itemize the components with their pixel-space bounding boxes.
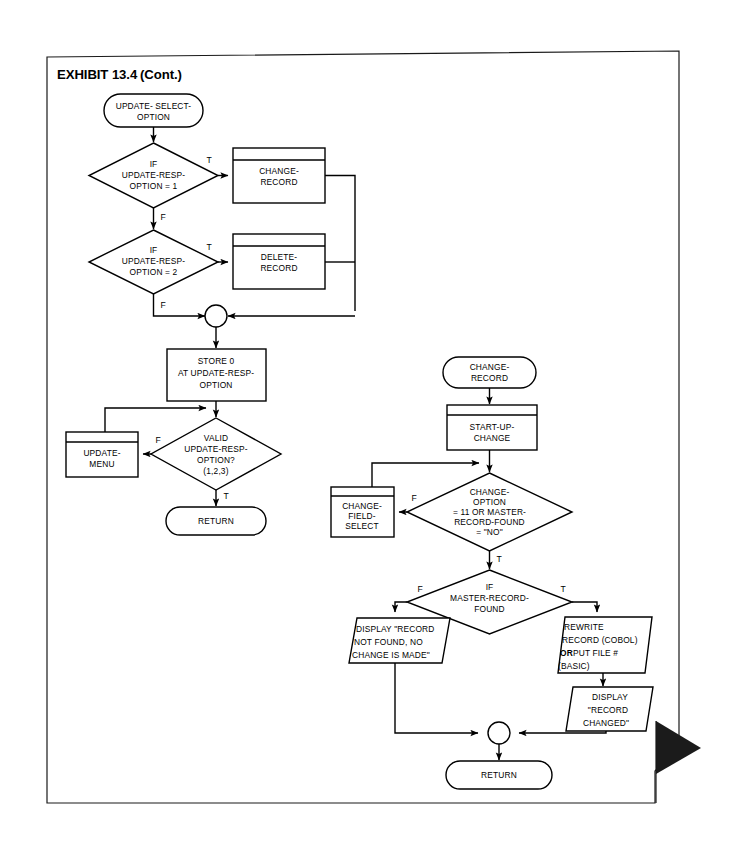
- edge-flag-false: F: [155, 435, 160, 445]
- node-label: RECORD: [260, 177, 297, 187]
- node-label: OPTION?: [197, 455, 235, 465]
- node-label: (1,2,3): [203, 466, 228, 476]
- edge-flag-true: T: [496, 554, 502, 564]
- node-label: STORE 0: [198, 356, 235, 366]
- page-title: EXHIBIT 13.4: [57, 67, 138, 82]
- node-label: PUT FILE #: [573, 648, 618, 658]
- node-label: UPDATE-RESP-: [122, 170, 186, 180]
- node-label: = 11 OR MASTER-: [453, 507, 526, 517]
- flowchart-canvas: EXHIBIT 13.4 (Cont.) UPDATE- SELECT- OPT…: [0, 0, 729, 841]
- edge-flag-false: F: [417, 584, 422, 594]
- edge-flag-false: F: [160, 300, 165, 310]
- node-start-up-change-call: START-UP- CHANGE: [447, 405, 537, 450]
- node-label: RECORD: [260, 263, 297, 273]
- node-label: RECORD: [471, 373, 508, 383]
- node-label: DISPLAY "RECORD: [356, 624, 434, 634]
- edge-n16-merge: [395, 663, 478, 733]
- node-display-record-not-found: DISPLAY "RECORD NOT FOUND, NO CHANGE IS …: [349, 618, 450, 663]
- node-change-field-select-call: CHANGE- FIELD- SELECT: [331, 487, 394, 537]
- node-label: CHANGE IS MADE": [352, 650, 430, 660]
- node-label: IF: [150, 245, 158, 255]
- edge-flag-false: F: [160, 212, 165, 222]
- node-label: CHANGE-: [342, 501, 382, 511]
- edge-flag-true: T: [206, 155, 212, 165]
- node-label: OPTION = 1: [130, 181, 178, 191]
- connector-node-lower: [488, 722, 510, 744]
- node-return-left: RETURN: [166, 507, 266, 535]
- node-label: CHANGE-: [259, 166, 299, 176]
- node-label: REWRITE: [564, 622, 604, 632]
- node-label: CHANGE-: [470, 487, 510, 497]
- node-label: MASTER-RECORD-: [450, 593, 529, 603]
- node-label: RETURN: [481, 770, 517, 780]
- node-label: VALID: [204, 433, 228, 443]
- node-label: UPDATE- SELECT-: [116, 101, 192, 111]
- node-label: UPDATE-RESP-: [122, 256, 186, 266]
- node-label: OPTION: [137, 112, 170, 122]
- node-update-select-option: UPDATE- SELECT- OPTION: [104, 94, 203, 127]
- node-label: CHANGED": [583, 718, 629, 728]
- edge-flag-true: T: [223, 491, 229, 501]
- node-label: OPTION: [473, 497, 506, 507]
- node-if-update-resp-option-2: IF UPDATE-RESP- OPTION = 2: [89, 230, 218, 294]
- node-label: CHANGE: [474, 433, 511, 443]
- node-label: UPDATE-: [83, 448, 120, 458]
- node-label: OR: [560, 648, 573, 658]
- node-label: FIELD-: [348, 511, 375, 521]
- edge-n3-merge: [325, 176, 355, 312]
- node-label: FOUND: [474, 604, 505, 614]
- connector-node-upper: [205, 305, 227, 327]
- node-label: OPTION: [199, 380, 232, 390]
- node-label: NOT FOUND, NO: [354, 637, 423, 647]
- page-title-continued: (Cont.): [140, 67, 182, 82]
- node-label: MENU: [89, 459, 114, 469]
- edge-update-menu-loopback: [105, 408, 206, 432]
- node-label: CHANGE-: [470, 362, 510, 372]
- node-label: DISPLAY: [592, 692, 628, 702]
- node-change-record-start: CHANGE- RECORD: [443, 357, 536, 388]
- node-valid-update-resp-option: VALID UPDATE-RESP- OPTION? (1,2,3): [151, 418, 281, 490]
- edge-n15-false: [395, 602, 407, 612]
- node-display-record-changed: DISPLAY "RECORD CHANGED": [566, 687, 653, 731]
- node-label: DELETE-: [261, 252, 297, 262]
- exhibit-page: EXHIBIT 13.4 (Cont.) UPDATE- SELECT- OPT…: [0, 0, 729, 841]
- edge-flag-false: F: [411, 493, 416, 503]
- node-delete-record-call: DELETE- RECORD: [233, 234, 325, 289]
- node-update-menu-call: UPDATE- MENU: [66, 432, 138, 477]
- node-change-option-check: CHANGE- OPTION = 11 OR MASTER- RECORD-FO…: [407, 473, 572, 551]
- node-rewrite-record: REWRITE RECORD (COBOL) OR PUT FILE # (BA…: [558, 617, 652, 673]
- node-if-update-resp-option-1: IF UPDATE-RESP- OPTION = 1: [89, 143, 218, 208]
- node-label: SELECT: [345, 521, 378, 531]
- node-label: START-UP-: [470, 422, 515, 432]
- node-store-zero: STORE 0 AT UPDATE-RESP- OPTION: [167, 349, 266, 401]
- node-label: OPTION = 2: [130, 267, 178, 277]
- node-change-record-call: CHANGE- RECORD: [233, 148, 325, 203]
- edge-change-field-select-loopback: [372, 463, 479, 487]
- node-label: RECORD (COBOL): [562, 635, 638, 645]
- node-label: IF: [486, 582, 494, 592]
- node-return-right: RETURN: [446, 761, 552, 789]
- node-label: "RECORD: [588, 705, 628, 715]
- node-label: (BASIC): [558, 661, 590, 671]
- edge-flag-true: T: [560, 584, 566, 594]
- edge-n15-true: [572, 602, 597, 612]
- node-label: RETURN: [198, 516, 234, 526]
- node-label: = "NO": [476, 527, 503, 537]
- node-label: RECORD-FOUND: [454, 517, 525, 527]
- node-label: UPDATE-RESP-: [184, 444, 248, 454]
- node-label: AT UPDATE-RESP-: [178, 368, 254, 378]
- edge-flag-true: T: [206, 242, 212, 252]
- node-label: IF: [150, 159, 158, 169]
